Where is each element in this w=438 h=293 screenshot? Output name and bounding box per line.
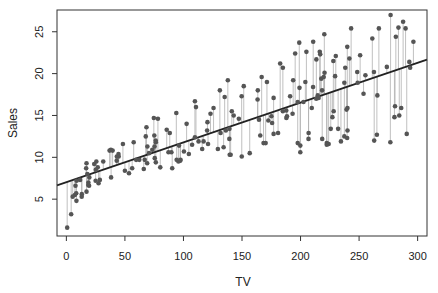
data-point [239,94,244,99]
data-point [134,158,139,163]
data-point [304,50,309,55]
regression-line-path [57,60,427,186]
data-point [227,153,232,158]
data-point [230,109,235,114]
data-point [150,147,155,152]
data-point [241,84,246,89]
data-point [377,26,382,31]
data-point [256,88,261,93]
data-point [109,175,114,180]
data-point [221,145,226,150]
data-point [278,61,283,66]
data-point [339,139,344,144]
data-point [295,100,300,105]
data-point [65,225,70,230]
data-point [222,95,227,100]
data-point [131,140,136,145]
data-point [388,140,393,145]
data-point [322,32,327,37]
data-point [156,117,161,122]
data-point [385,65,390,70]
data-point [143,134,148,139]
data-point [403,26,408,31]
data-point [271,132,276,137]
data-point [392,115,397,120]
data-point [211,106,216,111]
data-point [345,136,350,141]
data-point [193,99,198,104]
data-point [218,88,223,93]
data-point [205,120,210,125]
data-point [404,132,409,137]
data-point [331,109,336,114]
data-point [343,65,348,70]
data-point [127,171,132,176]
data-point [344,107,349,112]
data-point [320,137,325,142]
data-point [265,80,270,85]
data-point [84,166,89,171]
data-point [393,104,398,109]
x-axis-label: TV [235,275,250,289]
data-point [328,127,333,132]
data-point [358,53,363,58]
data-point [121,142,126,147]
data-point [269,114,274,119]
data-point [298,150,303,155]
y-tick-label: 15 [33,109,45,121]
data-point [93,178,98,183]
x-tick-label: 100 [174,250,192,262]
data-point [388,13,393,18]
data-point [154,160,159,165]
data-point [345,45,350,50]
data-point [306,131,311,136]
data-point [74,191,79,196]
y-tick-label: 25 [33,26,45,38]
data-point [270,121,275,126]
data-point [190,142,195,147]
data-point [303,80,308,85]
data-point [372,70,377,75]
data-point [297,86,302,91]
data-point [84,161,89,166]
data-point [321,75,326,80]
data-point [78,178,83,183]
data-point [205,128,210,133]
data-point [330,115,335,120]
data-point [324,142,329,147]
x-tick-label: 150 [233,250,251,262]
y-tick-label: 10 [33,151,45,163]
data-point [411,40,416,45]
data-point [361,91,366,96]
data-point [114,158,119,163]
data-point [73,183,78,188]
data-point [347,56,352,61]
data-point [396,25,401,30]
data-point [342,81,347,86]
data-point [349,26,354,31]
data-point [152,116,157,121]
data-point [164,127,169,132]
data-point [408,65,413,70]
data-point [394,34,399,39]
y-axis-label: Sales [6,108,20,138]
data-point [284,108,289,113]
data-point [69,212,74,217]
regression-line [57,60,427,186]
data-point [297,40,302,45]
data-point [79,194,84,199]
data-point [306,137,311,142]
data-point [87,175,92,180]
data-point [397,113,402,118]
data-point [182,149,187,154]
data-point [288,94,293,99]
x-tick-label: 0 [63,250,69,262]
data-point [375,132,380,137]
data-point [144,125,149,130]
data-point [239,154,244,159]
y-tick-label: 20 [33,67,45,79]
y-tick-label: 5 [33,196,45,202]
x-tick-label: 300 [408,250,426,262]
data-point [174,111,179,116]
data-point [208,111,213,116]
